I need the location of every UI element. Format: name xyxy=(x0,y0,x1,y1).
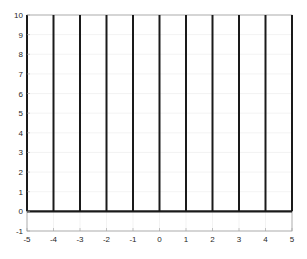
x-tick-label: 1 xyxy=(184,235,189,244)
y-tick-label: 3 xyxy=(19,148,24,157)
y-tick-label: 4 xyxy=(19,129,24,138)
y-tick-label: -1 xyxy=(16,227,24,236)
y-tick-label: 5 xyxy=(19,109,24,118)
x-tick-label: 4 xyxy=(263,235,268,244)
y-tick-label: 0 xyxy=(19,207,24,216)
y-tick-label: 8 xyxy=(19,50,24,59)
x-tick-label: 5 xyxy=(290,235,295,244)
y-tick-label: 6 xyxy=(19,90,24,99)
y-tick-label: 9 xyxy=(19,31,24,40)
x-tick-label: -3 xyxy=(76,235,84,244)
x-axis-ticks: -5-4-3-2-1012345 xyxy=(23,228,294,244)
y-tick-label: 1 xyxy=(19,188,24,197)
x-tick-label: -4 xyxy=(50,235,58,244)
y-tick-label: 7 xyxy=(19,70,24,79)
x-tick-label: 0 xyxy=(157,235,162,244)
y-tick-label: 2 xyxy=(19,168,24,177)
x-tick-label: -5 xyxy=(23,235,31,244)
x-tick-label: -1 xyxy=(129,235,137,244)
x-tick-label: 2 xyxy=(210,235,215,244)
x-tick-label: 3 xyxy=(237,235,242,244)
chart: -5-4-3-2-1012345 -1012345678910 xyxy=(0,0,307,259)
x-tick-label: -2 xyxy=(103,235,111,244)
y-tick-label: 10 xyxy=(14,11,23,20)
